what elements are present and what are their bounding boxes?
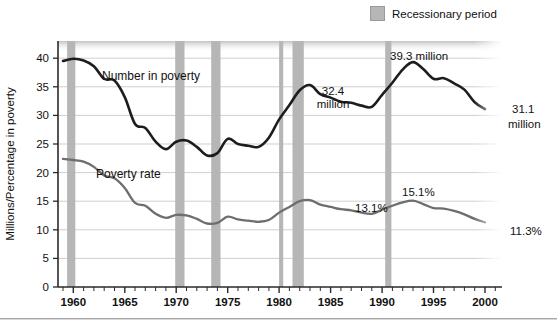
y-tick-label: 0 (43, 281, 49, 293)
y-tick-label: 20 (36, 167, 49, 179)
chart-canvas: 0510152025303540 19601965197019751980198… (0, 0, 557, 330)
y-tick-label: 15 (36, 195, 49, 207)
plot-right-fade (474, 41, 502, 287)
recession-band (211, 41, 220, 287)
annotation-15-1-percent: 15.1% (402, 186, 435, 198)
x-tick-label: 1965 (112, 296, 138, 308)
y-axis-title: Millions/Percentage in poverty (4, 87, 16, 241)
series-label-number-in-poverty: Number in poverty (102, 69, 200, 83)
y-tick-label: 5 (43, 252, 49, 264)
y-tick-label: 40 (36, 52, 49, 64)
annotation-31-1-million-line1: 31.1 (512, 103, 534, 115)
annotation-32-4-million-line2: million (317, 98, 350, 110)
y-axis-ticks: 0510152025303540 (36, 52, 58, 293)
annotation-13-1-percent: 13.1% (355, 202, 388, 214)
annotation-32-4-million-line1: 32.4 (322, 85, 345, 97)
x-tick-label: 1995 (421, 296, 447, 308)
y-tick-label: 25 (36, 138, 49, 150)
x-tick-label: 1970 (163, 296, 189, 308)
y-tick-label: 10 (36, 224, 49, 236)
annotation-31-1-million-line2: million (508, 118, 541, 130)
annotation-39-3-million: 39.3 million (390, 50, 448, 62)
footer-rule-shadow (0, 319, 557, 320)
annotation-11-3-percent: 11.3% (510, 225, 542, 237)
recession-band (293, 41, 304, 287)
recession-band (67, 41, 75, 287)
x-tick-label: 2000 (472, 296, 498, 308)
y-tick-label: 30 (36, 109, 49, 121)
recession-band (385, 41, 391, 287)
recession-band (279, 41, 283, 287)
x-tick-label: 1960 (61, 296, 87, 308)
series-label-poverty-rate: Poverty rate (96, 167, 161, 181)
poverty-chart-figure: Recessionary period 0 (0, 0, 557, 330)
x-tick-label: 1990 (369, 296, 395, 308)
y-tick-label: 35 (36, 81, 49, 93)
x-tick-label: 1985 (318, 296, 344, 308)
x-tick-label: 1975 (215, 296, 241, 308)
x-tick-label: 1980 (266, 296, 292, 308)
x-axis-ticks: 196019651970197519801985199019952000 (61, 287, 498, 308)
